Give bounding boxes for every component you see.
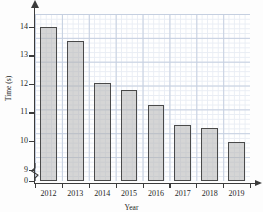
y-tick-10	[29, 141, 35, 142]
y-tick-12	[29, 84, 35, 85]
x-tick-7	[223, 183, 224, 188]
bar-2014	[94, 83, 111, 181]
y-tick-label-10: 10	[8, 137, 28, 145]
y-tick-11	[29, 112, 35, 113]
y-tick-label-0: 0	[8, 177, 28, 185]
y-tick-9	[29, 170, 35, 171]
bar-2015	[121, 90, 138, 181]
x-tick-1	[62, 183, 63, 188]
y-tick-14	[29, 27, 35, 28]
x-tick-label-2019: 2019	[220, 189, 254, 198]
x-tick-8	[250, 183, 251, 188]
bar-2018	[201, 128, 218, 181]
x-tick-4	[143, 183, 144, 188]
bar-2013	[67, 41, 84, 181]
x-axis-arrow-icon	[255, 180, 262, 186]
y-tick-label-9: 9	[8, 166, 28, 174]
y-tick-13	[29, 55, 35, 56]
y-axis-title: Time (s)	[4, 61, 13, 117]
x-tick-3	[116, 183, 117, 188]
axis-break-icon	[29, 163, 41, 181]
y-axis-arrow-icon	[31, 0, 39, 8]
bar-2019	[228, 142, 245, 181]
y-tick-label-14: 14	[8, 23, 28, 31]
bar-chart: 141312111090 Time (s) 201220132014201520…	[0, 0, 263, 212]
bars-layer	[35, 14, 250, 181]
y-axis-line	[34, 4, 35, 184]
x-tick-6	[196, 183, 197, 188]
x-tick-2	[89, 183, 90, 188]
bar-2017	[174, 125, 191, 181]
y-tick-0	[29, 181, 35, 182]
x-axis-title: Year	[0, 203, 263, 212]
x-tick-5	[169, 183, 170, 188]
x-tick-0	[35, 183, 36, 188]
bar-2016	[148, 105, 165, 181]
y-tick-label-13: 13	[8, 51, 28, 59]
bar-2012	[40, 27, 57, 181]
